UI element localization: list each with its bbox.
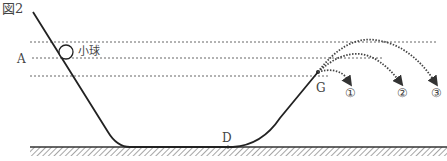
point-d-marker <box>226 145 229 148</box>
figure-title: 図2 <box>2 2 23 15</box>
path-3-label: ③ <box>431 87 442 99</box>
point-g-label: G <box>316 82 326 94</box>
track <box>33 12 318 147</box>
ball <box>59 45 73 59</box>
path-2-label: ② <box>397 87 408 99</box>
point-d-label: D <box>222 132 232 144</box>
path-1-label: ① <box>345 87 356 99</box>
ground <box>30 147 447 156</box>
ball-label: 小球 <box>78 46 100 57</box>
trajectories <box>318 40 435 82</box>
trajectory-3 <box>318 40 435 82</box>
point-a-label: A <box>17 53 26 65</box>
